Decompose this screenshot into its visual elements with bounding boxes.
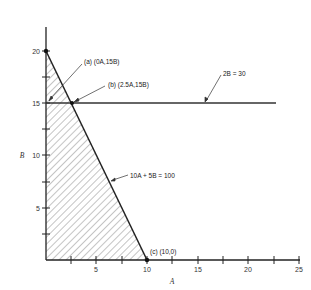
y-tick-10: 10 (32, 152, 40, 159)
annotation-point-a: (a) (0A,15B) (84, 58, 119, 66)
x-tick-10: 10 (143, 266, 151, 273)
linear-program-chart: 20 15 10 5 5 10 15 20 25 B A (a) (0A,15B… (0, 0, 311, 290)
point-b (70, 101, 74, 105)
x-tick-20: 20 (244, 266, 252, 273)
x-tick-5: 5 (94, 266, 98, 273)
x-tick-15: 15 (194, 266, 202, 273)
y-tick-5: 5 (36, 205, 40, 212)
x-axis-title: A (169, 277, 175, 286)
y-tick-20: 20 (32, 48, 40, 55)
x-tick-25: 25 (295, 266, 303, 273)
annotation-point-c: (c) (10,0) (150, 248, 176, 256)
y-axis-title: B (20, 151, 25, 160)
annotation-point-b: (b) (2.5A,15B) (108, 81, 149, 89)
annotation-constraint-10a-5b: 10A + 5B = 100 (130, 172, 175, 179)
y-tick-15: 15 (32, 100, 40, 107)
annotation-constraint-2b: 2B = 30 (223, 70, 246, 77)
point-0-20 (44, 49, 48, 53)
point-c (145, 258, 149, 262)
